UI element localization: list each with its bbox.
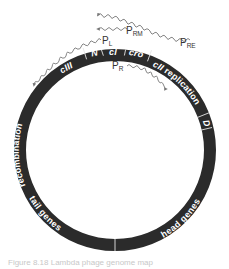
- segment-label-ci: cI: [109, 47, 117, 57]
- segment-label-tail-genes: tail genes: [27, 194, 63, 233]
- transcript-pre-wave: [98, 14, 190, 42]
- figure-caption: Figure 8.18 Lambda phage genome map: [8, 258, 153, 267]
- transcript-prm-wave: [98, 28, 127, 31]
- promoter-label-prm: PRM: [126, 25, 143, 37]
- lambda-genome-diagram: recombination cIII N cI cro cII replicat…: [0, 0, 229, 269]
- segment-label-n: N: [90, 47, 99, 58]
- segment-dividers: [83, 48, 212, 251]
- segment-label-cii-replication: cII replication: [151, 59, 202, 106]
- segment-label-head-genes: head genes: [159, 197, 202, 240]
- promoter-label-pr: PR: [112, 60, 124, 72]
- segment-label-replication: replication: [163, 66, 203, 107]
- promoter-label-pl: PL: [102, 35, 113, 47]
